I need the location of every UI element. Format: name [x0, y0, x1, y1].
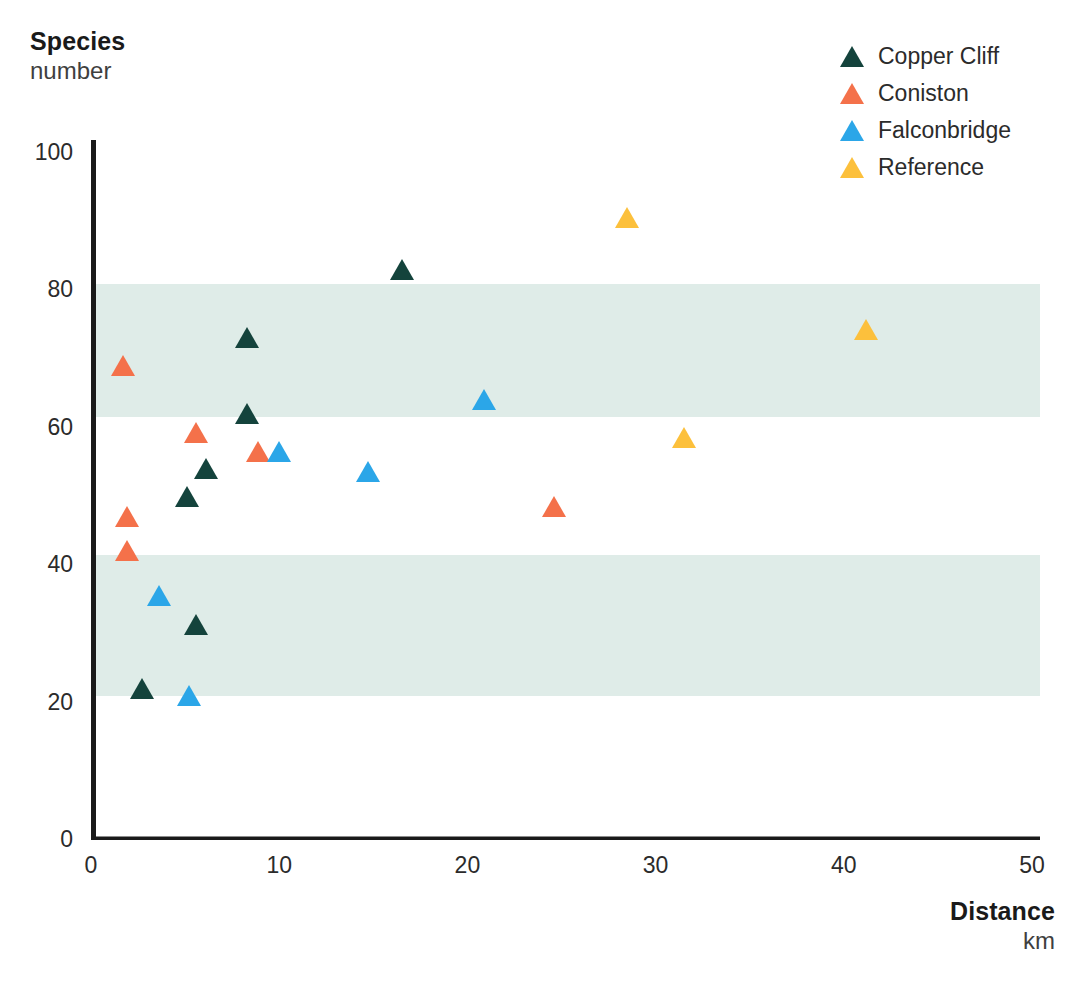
data-point-triangle: [615, 207, 639, 228]
data-point-triangle: [542, 496, 566, 517]
plot-area: [91, 140, 1040, 840]
shaded-band: [91, 555, 1040, 696]
data-point-triangle: [175, 486, 199, 507]
data-point-triangle: [111, 355, 135, 376]
scatter-plot-figure: Species number Distance km Copper CliffC…: [0, 0, 1069, 981]
data-point-triangle: [267, 441, 291, 462]
data-point-triangle: [130, 678, 154, 699]
x-axis-tick-label: 50: [987, 852, 1069, 879]
data-point-triangle: [115, 506, 139, 527]
x-axis-tick-label: 0: [46, 852, 136, 879]
data-point-triangle: [194, 458, 218, 479]
shaded-band: [91, 284, 1040, 418]
x-axis-tick-label: 20: [422, 852, 512, 879]
x-axis-tick-label: 10: [234, 852, 324, 879]
axis-lines: [91, 140, 1040, 840]
data-point-triangle: [235, 403, 259, 424]
x-axis-tick-label: 30: [611, 852, 701, 879]
data-point-triangle: [115, 540, 139, 561]
data-point-triangle: [356, 461, 380, 482]
data-point-triangle: [672, 427, 696, 448]
data-point-triangle: [184, 614, 208, 635]
data-point-triangle: [147, 585, 171, 606]
data-point-triangle: [235, 327, 259, 348]
data-point-triangle: [177, 685, 201, 706]
data-point-triangle: [390, 259, 414, 280]
data-point-triangle: [854, 319, 878, 340]
data-point-triangle: [472, 389, 496, 410]
x-axis-tick-label: 40: [799, 852, 889, 879]
data-point-triangle: [184, 422, 208, 443]
